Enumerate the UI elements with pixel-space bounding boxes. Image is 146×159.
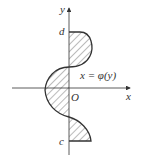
shaded-region-bottom <box>69 117 91 141</box>
shaded-region-top <box>69 32 92 67</box>
x-axis-label: x <box>125 90 131 102</box>
upper-bound-label: d <box>59 25 65 37</box>
shaded-region-middle <box>45 67 69 117</box>
origin-label: O <box>71 91 79 103</box>
diagram-canvas: y x O d c x = φ(y) <box>0 0 146 159</box>
lower-bound-label: c <box>59 135 64 147</box>
curve-label: x = φ(y) <box>79 69 116 82</box>
y-axis-label: y <box>59 3 65 15</box>
